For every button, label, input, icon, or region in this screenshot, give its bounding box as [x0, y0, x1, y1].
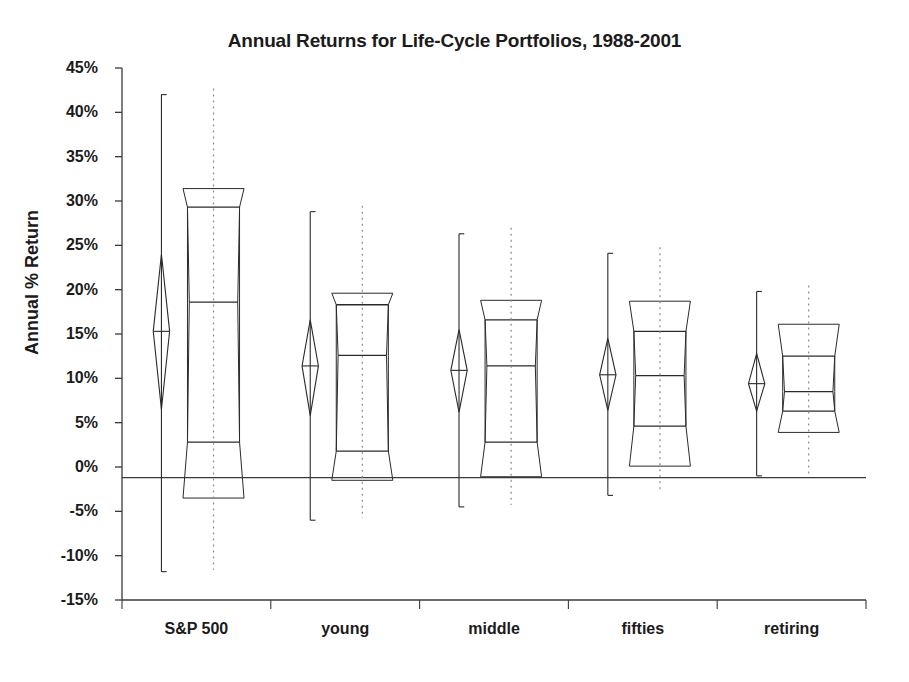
box-outline: [183, 189, 244, 498]
boxplot-plot-area: [0, 0, 909, 682]
boxplot-group-retiring: [748, 285, 839, 475]
boxplot-group-s-p-500: [153, 89, 244, 572]
boxplot-group-middle: [451, 228, 542, 507]
boxplot-group-fifties: [600, 247, 691, 495]
chart-container: Annual Returns for Life-Cycle Portfolios…: [0, 0, 909, 682]
boxplot-group-young: [302, 206, 393, 521]
